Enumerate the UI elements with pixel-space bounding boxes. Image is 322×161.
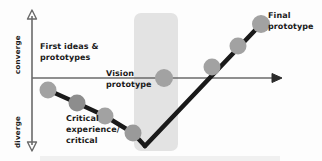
axis-label-diverge: diverge — [14, 116, 22, 148]
diagram-canvas: converge diverge First ideas & prototype… — [0, 0, 322, 161]
axis-right-arrow-icon — [272, 74, 282, 83]
node-first-ideas — [40, 82, 57, 99]
bottom-scan-artifact — [40, 156, 280, 161]
label-critical-experience: Critical experience/ critical — [66, 113, 120, 146]
node-diverge-2 — [69, 95, 86, 112]
label-vision-prototype: Vision prototype — [106, 68, 152, 90]
axis-label-converge: converge — [14, 35, 22, 74]
node-converge-2 — [230, 38, 247, 55]
node-vision-prototype — [155, 69, 173, 87]
node-diverge-4 — [125, 125, 142, 142]
label-final-prototype: Final prototype — [268, 10, 314, 32]
node-converge-1 — [204, 59, 221, 76]
label-first-ideas: First ideas & prototypes — [40, 41, 99, 63]
